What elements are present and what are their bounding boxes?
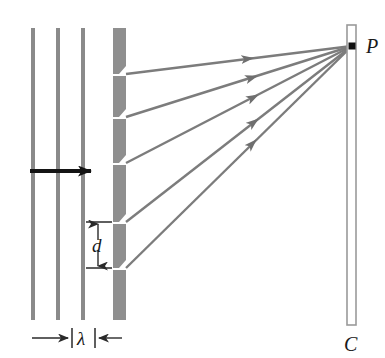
grating (113, 28, 126, 320)
diffraction-grating-figure: P C d λ (0, 0, 385, 358)
diffracted-ray-5 (126, 46, 352, 268)
viewing-screen (347, 25, 356, 325)
slit-spacing-label: d (92, 235, 102, 256)
screen-body (347, 25, 356, 325)
grating-segment-5 (113, 224, 126, 268)
wavelength-label: λ (76, 328, 85, 349)
figure-canvas: P C d λ (0, 0, 385, 358)
slit-spacing-dimension: d (86, 222, 112, 268)
incident-wavefronts (33, 28, 83, 320)
bright-fringe-point-dot (349, 43, 356, 50)
grating-segment-6 (113, 270, 126, 320)
diffracted-ray-4 (126, 46, 352, 222)
grating-segment-2 (113, 76, 126, 117)
grating-segment-4 (113, 165, 126, 222)
grating-segment-1 (113, 28, 126, 74)
wavelength-dimension: λ (32, 328, 122, 349)
point-p-label: P (365, 35, 378, 57)
diffracted-rays (126, 46, 352, 268)
diffracted-ray-2 (126, 46, 352, 117)
diffracted-ray-1 (126, 46, 352, 74)
screen-c-label: C (344, 333, 358, 355)
grating-segment-3 (113, 119, 126, 163)
diffracted-ray-3 (126, 46, 352, 163)
